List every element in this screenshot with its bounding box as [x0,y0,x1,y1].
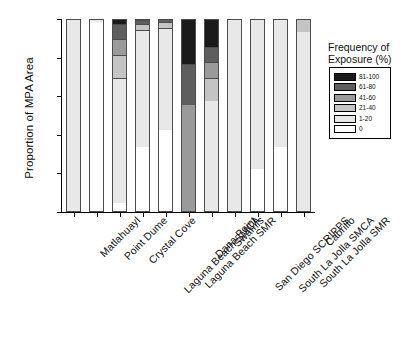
legend-label: 0 [359,125,363,133]
bar-segment-41-60 [182,105,194,211]
bar-south-la-jolla-smr[interactable] [273,19,287,212]
legend-label: 61-80 [359,83,376,91]
bar-series-group [62,19,315,212]
legend-swatch-icon [334,104,356,112]
bar-segment-0 [90,22,102,211]
bar-segment-0 [159,130,171,211]
bar-segment-61-80 [205,47,217,62]
bar-segment-41-60 [113,39,125,54]
legend-label: 1-20 [359,115,372,123]
bar-segment-61-80 [159,19,171,22]
bar-segment-41-60 [205,62,217,77]
x-axis-category-labels: MatlahuaylPoint DumeCrystal CoveLaguna B… [62,214,322,334]
bar-segment-1-20 [274,19,286,147]
bar-segment-1-20 [228,19,240,211]
bar-point-dume[interactable] [89,19,103,212]
legend-item-21-40[interactable]: 21-40 [334,104,387,113]
bar-segment-21-40 [205,78,217,101]
bar-segment-81-100 [136,19,148,20]
bar-crystal-cove[interactable] [112,19,126,212]
bar-dana-point[interactable] [181,19,195,212]
bar-segment-61-80 [136,20,148,24]
legend-item-81-100[interactable]: 81-100 [334,72,387,81]
legend-item-0[interactable]: 0 [334,125,387,134]
bar-segment-1-20 [67,19,79,211]
y-tick [57,212,62,213]
bar-laguna-beach-smca[interactable] [135,19,149,212]
bar-segment-1-20 [205,101,217,211]
legend-item-61-80[interactable]: 61-80 [334,83,387,92]
bar-laguna-beach-smr[interactable] [158,19,172,212]
bar-segment-21-40 [136,24,148,30]
bar-swamis[interactable] [204,19,218,212]
bar-segment-21-40 [297,19,309,32]
y-axis-title: Proportion of MPA Area [23,23,35,213]
bar-san-diego-scripps[interactable] [227,19,241,212]
bar-south-la-jolla-smca[interactable] [250,19,264,212]
bar-segment-81-100 [205,19,217,47]
legend-swatch-icon [334,115,356,123]
legend-label: 41-60 [359,94,376,102]
bar-segment-1-20 [136,30,148,148]
legend-swatch-icon [334,94,356,102]
bar-segment-1-20 [159,28,171,130]
legend: 81-10061-8041-6021-401-200 [329,67,391,139]
bar-segment-21-40 [159,22,171,28]
bar-matlahuayl[interactable] [66,19,80,212]
bar-segment-1-20 [297,32,309,211]
legend-label: 21-40 [359,104,376,112]
legend-swatch-icon [334,125,356,133]
bar-cabrillo[interactable] [296,19,310,212]
bar-segment-0 [251,169,263,211]
legend-label: 81-100 [359,73,379,81]
stacked-bar-chart: Proportion of MPA Area 0.00.20.40.60.81.… [0,0,409,343]
bar-segment-0 [274,147,286,211]
bar-segment-1-20 [251,19,263,169]
bar-segment-61-80 [182,64,194,105]
legend-swatch-icon [334,73,356,81]
legend-swatch-icon [334,83,356,91]
legend-title: Frequency of Exposure (%) [328,41,408,65]
bar-segment-61-80 [113,24,125,39]
legend-item-41-60[interactable]: 41-60 [334,93,387,102]
bar-segment-21-40 [113,55,125,78]
legend-item-1-20[interactable]: 1-20 [334,114,387,123]
bar-segment-0 [113,203,125,211]
bar-segment-0 [136,147,148,211]
bar-segment-1-20 [90,19,102,22]
bar-segment-81-100 [113,19,125,24]
bar-segment-1-20 [113,78,125,203]
bar-segment-81-100 [182,19,194,64]
plot-area: 0.00.20.40.60.81.0 [62,19,315,212]
